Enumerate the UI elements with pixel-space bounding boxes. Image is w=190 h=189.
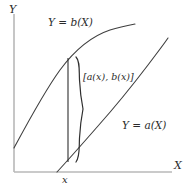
curve-upper-b	[14, 24, 135, 148]
x-axis-label: X	[174, 160, 182, 171]
curve-label-upper: Y = b(X)	[48, 17, 93, 28]
x-tick-label: x	[62, 175, 68, 185]
curve-lower-a	[57, 38, 168, 172]
curve-label-lower: Y = a(X)	[122, 120, 166, 131]
y-axis-label: Y	[9, 4, 16, 15]
figure-canvas	[0, 0, 190, 189]
interval-brace	[76, 57, 83, 162]
figure-container: Y X Y = b(X) Y = a(X) [a(x), b(x)] x	[0, 0, 190, 189]
interval-annotation-label: [a(x), b(x)]	[83, 72, 134, 82]
